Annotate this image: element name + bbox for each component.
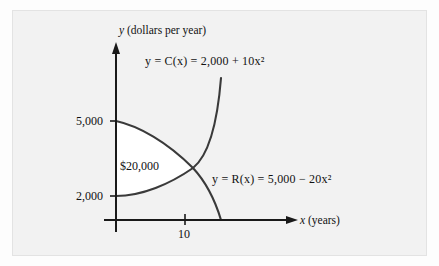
- y-axis-title: y (dollars per year): [119, 25, 206, 37]
- x-axis-title: x (years): [300, 215, 340, 227]
- y-tick-label-2000: 2,000: [76, 190, 103, 202]
- y-axis-arrowhead: [112, 42, 120, 54]
- cost-equation-label: y = C(x) = 2,000 + 10x²: [145, 55, 265, 67]
- x-tick-label-10: 10: [178, 228, 190, 240]
- x-axis-arrowhead: [286, 216, 298, 224]
- y-tick-label-5000: 5,000: [76, 115, 103, 127]
- shaded-region-label: $20,000: [120, 160, 159, 172]
- revenue-equation-label: y = R(x) = 5,000 − 20x²: [212, 173, 332, 185]
- plot-canvas: [0, 0, 439, 266]
- figure-root: y (dollars per year) x (years) y = C(x) …: [0, 0, 439, 266]
- y-axis-title-unit: (dollars per year): [124, 24, 206, 36]
- x-axis-title-unit: (years): [305, 214, 340, 226]
